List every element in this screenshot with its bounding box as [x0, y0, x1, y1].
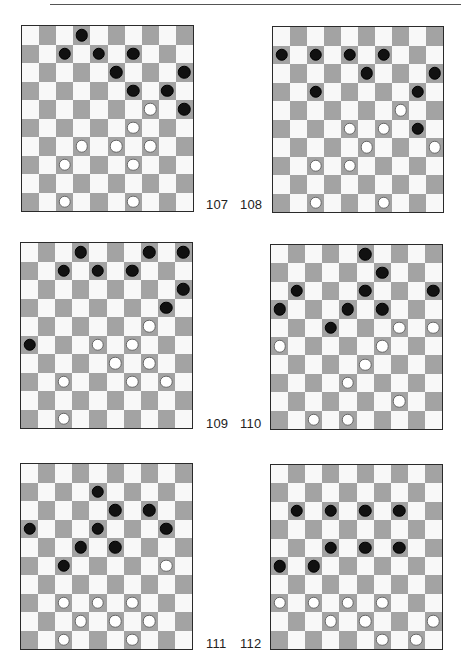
white-piece-icon	[393, 395, 406, 408]
board-square	[90, 193, 107, 212]
board-square	[357, 282, 374, 300]
board-square	[55, 280, 72, 299]
board-square	[72, 262, 89, 281]
board-square	[175, 464, 192, 483]
board-square	[159, 26, 176, 45]
board-square	[391, 539, 408, 557]
board-square	[374, 411, 391, 429]
board-square	[73, 156, 90, 175]
board-square	[55, 464, 72, 483]
board-square	[322, 502, 339, 520]
black-piece-icon	[393, 542, 406, 555]
board-square	[21, 336, 38, 355]
board-square	[271, 575, 288, 593]
board-square	[358, 64, 375, 83]
board-square	[425, 539, 442, 557]
board-square	[175, 410, 192, 429]
board-square	[426, 175, 443, 194]
board-square	[339, 355, 356, 373]
board-square	[176, 100, 193, 119]
white-piece-icon	[376, 597, 389, 610]
board-square	[288, 557, 305, 575]
board-square	[290, 157, 307, 176]
board-square	[90, 174, 107, 193]
board-square	[425, 483, 442, 501]
board-square	[158, 631, 175, 650]
board-square	[374, 319, 391, 337]
board-square	[324, 175, 341, 194]
white-piece-icon	[160, 376, 173, 389]
black-piece-icon	[275, 49, 288, 62]
board-square	[339, 282, 356, 300]
board-square	[426, 46, 443, 65]
black-piece-icon	[427, 285, 440, 298]
board-square	[21, 354, 38, 373]
board-square	[392, 83, 409, 102]
board-square	[271, 282, 288, 300]
board-square	[339, 557, 356, 575]
black-piece-icon	[92, 486, 105, 499]
black-piece-icon	[143, 246, 156, 259]
board-square	[375, 27, 392, 46]
board-square	[159, 100, 176, 119]
board-square	[124, 410, 141, 429]
white-piece-icon	[342, 597, 355, 610]
board-square	[305, 594, 322, 612]
black-piece-icon	[92, 265, 105, 278]
black-piece-icon	[273, 560, 286, 573]
board-square	[425, 337, 442, 355]
board-square	[175, 594, 192, 613]
board-square	[408, 374, 425, 392]
board-square	[426, 83, 443, 102]
board-square	[322, 539, 339, 557]
board-square	[72, 336, 89, 355]
header-rule	[50, 4, 461, 5]
board-square	[391, 631, 408, 649]
board-square	[124, 354, 141, 373]
board-square	[288, 374, 305, 392]
board-square	[21, 317, 38, 336]
board-square	[39, 174, 56, 193]
board-square	[305, 282, 322, 300]
board-square	[392, 138, 409, 157]
board-square	[89, 557, 106, 576]
board-square	[305, 263, 322, 281]
board-square	[391, 263, 408, 281]
board-square	[38, 299, 55, 318]
board-square	[305, 575, 322, 593]
board-square	[374, 594, 391, 612]
board-square	[107, 594, 124, 613]
board-square	[341, 194, 358, 213]
board-square	[175, 280, 192, 299]
board-square	[322, 355, 339, 373]
board-square	[375, 138, 392, 157]
board-square	[89, 336, 106, 355]
white-piece-icon	[376, 634, 389, 647]
board-square	[73, 100, 90, 119]
board-square	[341, 46, 358, 65]
board-square	[55, 501, 72, 520]
board-square	[124, 317, 141, 336]
board-square	[357, 337, 374, 355]
board-square	[21, 373, 38, 392]
board-square	[89, 464, 106, 483]
board-square	[72, 631, 89, 650]
black-piece-icon	[23, 523, 36, 536]
black-piece-icon	[359, 505, 372, 518]
board-square	[107, 336, 124, 355]
board-square	[341, 64, 358, 83]
board-square	[90, 119, 107, 138]
board-square	[425, 411, 442, 429]
white-piece-icon	[307, 414, 320, 427]
board-square	[55, 538, 72, 557]
board-square	[425, 557, 442, 575]
board-square	[55, 631, 72, 650]
board-square	[158, 243, 175, 262]
board-square	[305, 557, 322, 575]
board-square	[158, 594, 175, 613]
board-square	[339, 631, 356, 649]
board-square	[39, 156, 56, 175]
board-square	[90, 100, 107, 119]
board-square	[72, 280, 89, 299]
board-square	[158, 520, 175, 539]
